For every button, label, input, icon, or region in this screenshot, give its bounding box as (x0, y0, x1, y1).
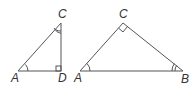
label-C-right: C (119, 7, 128, 21)
right-angle-mark-C (119, 27, 128, 33)
diagram-canvas: A D C A B C (0, 0, 194, 92)
left-triangle (18, 23, 61, 71)
angle-arc-B-right-1 (175, 65, 177, 71)
angle-arc-A-right (87, 64, 90, 72)
label-C-left: C (58, 7, 67, 21)
label-D-left: D (58, 71, 67, 85)
left-triangle-edges (18, 23, 61, 71)
similar-triangles-figure: A D C A B C (0, 0, 194, 92)
label-A-left: A (10, 71, 19, 85)
angle-arc-A-left (26, 65, 29, 72)
right-triangle-edges (80, 23, 183, 71)
label-A-right: A (73, 71, 82, 85)
label-B-right: B (181, 72, 189, 86)
angle-arc-B-right-2 (172, 64, 174, 71)
right-triangle (80, 23, 183, 71)
